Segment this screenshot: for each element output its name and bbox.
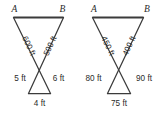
right-figure-label-lower-right-side: 90 ft <box>136 74 153 83</box>
left-figure-label-lower-base: 4 ft <box>34 99 46 108</box>
left-figure-label-lower-left-side: 5 ft <box>14 74 26 83</box>
geometry-diagram: A B 600 ft 500 ft 5 ft 6 ft 4 ft A B 450… <box>0 0 161 114</box>
right-figure-vertex-label-B: B <box>144 4 150 14</box>
right-figure-label-lower-base: 75 ft <box>111 99 128 108</box>
left-figure-vertex-label-A: A <box>11 4 18 14</box>
left-figure-label-lower-right-side: 6 ft <box>53 74 65 83</box>
right-figure-vertex-label-A: A <box>90 4 97 14</box>
left-figure-vertex-label-B: B <box>60 4 66 14</box>
right-figure-label-lower-left-side: 80 ft <box>86 74 103 83</box>
